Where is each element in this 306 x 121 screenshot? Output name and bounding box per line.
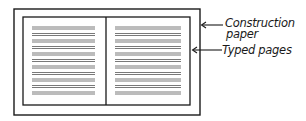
typed-pages-label: Typed pages — [222, 45, 292, 57]
construction-paper-label-line2: paper — [226, 29, 258, 41]
typed-pages-arrow-icon — [193, 47, 223, 53]
left-page-text-lines — [32, 27, 95, 94]
right-page-text-lines — [115, 27, 181, 94]
construction-paper-arrow-icon — [202, 22, 224, 28]
bookbinding-diagram: Construction paper Typed pages — [0, 0, 306, 121]
construction-paper-rect — [14, 9, 200, 115]
